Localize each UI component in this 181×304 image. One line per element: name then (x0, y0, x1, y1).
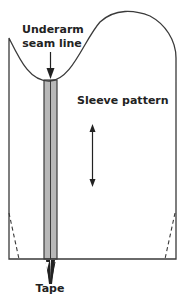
left-dashed-line (9, 213, 19, 259)
grainline-arrow-icon (90, 124, 96, 187)
right-dashed-line (165, 213, 175, 259)
tape-strip (44, 80, 57, 259)
underarm-label-line1: Underarm (22, 23, 82, 36)
sleeve-pattern-label: Sleeve pattern (77, 94, 169, 107)
tape-arrow-icon (45, 260, 55, 284)
tape-label: Tape (32, 282, 68, 295)
underarm-arrow-icon (47, 52, 55, 79)
underarm-label-line2: seam line (22, 37, 82, 50)
